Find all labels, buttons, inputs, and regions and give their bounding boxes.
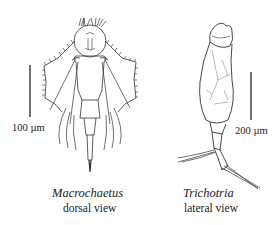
specimen-view-trichotria: lateral view	[184, 202, 238, 214]
figure-canvas	[0, 0, 280, 225]
scale-label-macrochaetus: 100 µm	[12, 122, 45, 133]
specimen-name-macrochaetus: Macrochaetus	[52, 186, 123, 201]
foot	[80, 100, 100, 160]
trichotria-drawing	[178, 23, 260, 189]
specimen-name-trichotria: Trichotria	[183, 186, 234, 201]
corona-bristles	[79, 18, 106, 27]
scale-label-trichotria: 200 µm	[235, 125, 268, 136]
lorica-outline	[44, 41, 136, 112]
trunk	[74, 56, 106, 100]
lorica-body	[200, 42, 234, 123]
head	[210, 23, 233, 47]
specimen-view-macrochaetus: dorsal view	[63, 202, 116, 214]
macrochaetus-drawing	[42, 18, 138, 172]
head	[74, 25, 106, 57]
foot	[210, 122, 228, 170]
